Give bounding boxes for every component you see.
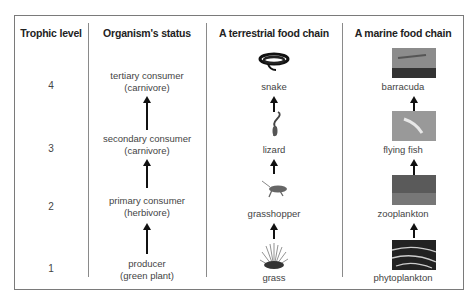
arrow-up-icon bbox=[146, 228, 148, 254]
status-subtitle: (carnivore) bbox=[88, 145, 206, 157]
grass-icon bbox=[252, 240, 296, 270]
barracuda-photo bbox=[392, 48, 436, 78]
status-subtitle: (herbivore) bbox=[88, 207, 206, 219]
lizard-icon bbox=[252, 110, 296, 140]
trophic-level-3: 3 bbox=[14, 143, 88, 154]
status-title: secondary consumer bbox=[88, 133, 206, 145]
snake-icon bbox=[252, 48, 296, 78]
status-subtitle: (green plant) bbox=[88, 270, 206, 282]
header-organism-status: Organism's status bbox=[88, 27, 206, 39]
grasshopper-icon bbox=[252, 175, 296, 205]
status-subtitle: (carnivore) bbox=[88, 82, 206, 94]
trophic-level-2: 2 bbox=[14, 201, 88, 212]
organism-lizard: lizard bbox=[206, 144, 342, 155]
organism-snake: snake bbox=[206, 81, 342, 92]
phytoplankton-photo bbox=[392, 240, 436, 270]
status-producer: producer (green plant) bbox=[88, 258, 206, 282]
arrow-up-icon bbox=[273, 228, 275, 239]
header-trophic-level: Trophic level bbox=[14, 27, 88, 39]
organism-phytoplankton: phytoplankton bbox=[342, 272, 464, 283]
arrow-up-icon bbox=[146, 101, 148, 130]
organism-grass: grass bbox=[206, 272, 342, 283]
header-terrestrial-chain: A terrestrial food chain bbox=[206, 27, 342, 39]
organism-grasshopper: grasshopper bbox=[206, 208, 342, 219]
status-secondary: secondary consumer (carnivore) bbox=[88, 133, 206, 157]
header-marine-chain: A marine food chain bbox=[342, 27, 464, 39]
zooplankton-photo bbox=[392, 175, 436, 205]
status-tertiary: tertiary consumer (carnivore) bbox=[88, 70, 206, 94]
status-title: tertiary consumer bbox=[88, 70, 206, 82]
arrow-up-icon bbox=[273, 164, 275, 174]
trophic-level-4: 4 bbox=[14, 80, 88, 91]
organism-barracuda: barracuda bbox=[342, 81, 464, 92]
arrow-up-icon bbox=[413, 164, 415, 175]
arrow-up-icon bbox=[413, 228, 415, 238]
organism-zooplankton: zooplankton bbox=[342, 208, 464, 219]
arrow-up-icon bbox=[146, 164, 148, 188]
status-title: primary consumer bbox=[88, 195, 206, 207]
arrow-up-icon bbox=[413, 101, 415, 111]
status-title: producer bbox=[88, 258, 206, 270]
flying-fish-photo bbox=[392, 111, 436, 141]
status-primary: primary consumer (herbivore) bbox=[88, 195, 206, 219]
organism-flying-fish: flying fish bbox=[342, 144, 464, 155]
trophic-level-1: 1 bbox=[14, 263, 88, 274]
